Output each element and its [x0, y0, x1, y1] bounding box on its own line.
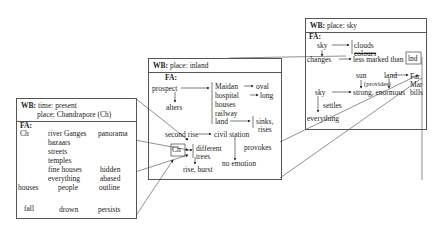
node-hidden: hidden	[100, 165, 120, 174]
node-long: long	[260, 91, 273, 100]
node-land: land	[215, 117, 228, 126]
node-panorama: panorama	[98, 129, 128, 138]
node-everything: everything	[307, 114, 339, 123]
node-hospital: hospital	[215, 91, 239, 100]
node-prospect: prospect	[152, 84, 177, 93]
node-ch: Ch	[20, 129, 29, 138]
node-abased: abased	[100, 174, 120, 183]
node-civil-station: civil station	[214, 130, 249, 139]
node-drown: drown	[59, 205, 78, 214]
wb-time: time: present	[38, 101, 77, 110]
node-rise-burst: rise, burst	[183, 165, 213, 174]
node-provokes: provokes	[244, 143, 272, 152]
node-bazaars: bazaars	[48, 138, 70, 147]
wb-place: place: inland	[170, 61, 209, 70]
box-chandrapore: WB: time: present place: Chandrapore (Ch…	[16, 98, 137, 219]
node-land: land	[384, 71, 397, 80]
node-lnd: lnd	[408, 54, 418, 63]
node-bills: bills	[410, 88, 423, 97]
node-strong-enormous: strong, enormous	[353, 88, 405, 97]
node-ch: Ch	[172, 145, 181, 154]
node-river-ganges: river Ganges	[48, 129, 87, 138]
world-builder-header: WB: time: present place: Chandrapore (Ch…	[17, 99, 136, 122]
node-everything: everything	[48, 174, 80, 183]
node-less-marked-than: less marked than	[353, 55, 403, 64]
node-fine-houses: fine houses	[48, 165, 82, 174]
node-no-emotion: no emotion	[222, 159, 256, 168]
node-maidan: Maidan	[215, 82, 238, 91]
node-streets: streets	[48, 147, 67, 156]
node-houses: houses	[18, 183, 38, 192]
node-trees: trees	[196, 152, 210, 161]
node-people: people	[58, 183, 78, 192]
wb-place: place: Chandrapore (Ch)	[21, 110, 111, 119]
wb-label: WB:	[153, 61, 168, 70]
node-houses: houses	[215, 100, 235, 109]
node-fall: fall	[24, 204, 34, 213]
node-second-rise: second rise	[165, 130, 199, 139]
world-builder-header: WB: place: sky	[306, 19, 426, 33]
node-provides: (provides)	[364, 79, 391, 88]
node-sky-2: sky	[315, 88, 325, 97]
wb-label: WB:	[21, 101, 36, 110]
node-sky: sky	[317, 41, 327, 50]
node-rises: rises	[258, 125, 272, 134]
node-alters: alters	[166, 103, 182, 112]
wb-label: WB:	[310, 21, 325, 30]
node-temples: temples	[48, 156, 71, 165]
node-oval: oval	[256, 82, 269, 91]
world-builder-header: WB: place: inland	[149, 59, 281, 73]
node-persists: persists	[98, 205, 121, 214]
wb-place: place: sky	[327, 21, 357, 30]
fa-label: FA:	[165, 73, 177, 82]
node-settles: settles	[323, 101, 342, 110]
node-changes: changes	[307, 55, 331, 64]
node-outline: outline	[99, 183, 120, 192]
fa-label: FA:	[309, 32, 321, 41]
